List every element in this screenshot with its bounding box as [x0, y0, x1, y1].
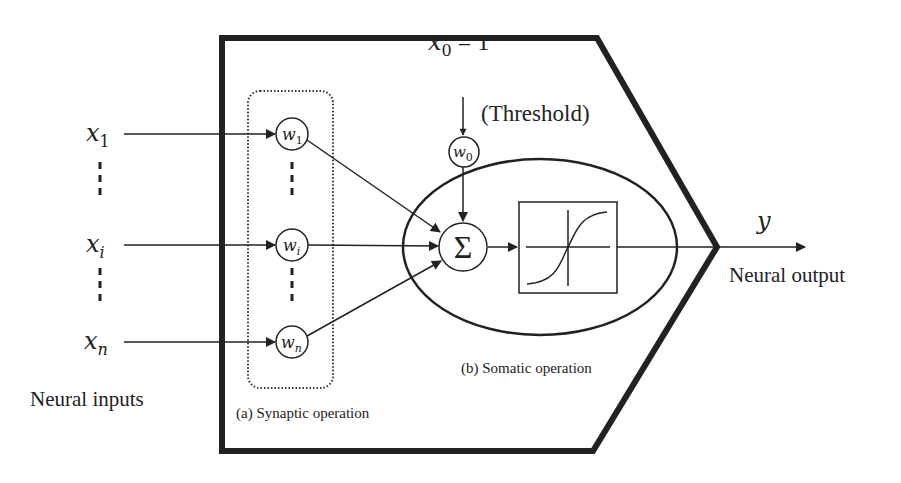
somatic-operation-label: (b) Somatic operation: [461, 360, 592, 377]
input-label-x1: x1: [86, 119, 110, 151]
weight-to-sum-arrow-1: [307, 140, 440, 232]
threshold-input-label: x0 = 1: [428, 28, 489, 60]
input-label-xi: xi: [86, 230, 105, 262]
weight-node-wi: wi: [276, 229, 308, 261]
weight-node-w0: w0: [449, 137, 479, 167]
weight-to-sum-arrow-i: [308, 245, 438, 246]
output-label: Neural output: [729, 263, 845, 287]
synaptic-operation-label: (a) Synaptic operation: [236, 405, 370, 422]
sigmoid-activation-icon: [519, 202, 617, 293]
weight-node-w1: w1: [276, 118, 308, 150]
svg-text:Σ: Σ: [454, 229, 473, 265]
summation-node: Σ: [439, 223, 487, 271]
weight-node-wn: wn: [276, 326, 308, 358]
threshold-label: (Threshold): [481, 101, 590, 126]
neuron-diagram: x1 xi xn w1 wi wn x0 = 1 (Threshold) w0 …: [0, 0, 901, 483]
neural-inputs-label: Neural inputs: [30, 387, 144, 411]
input-label-xn: xn: [84, 327, 108, 359]
weight-to-sum-arrow-n: [307, 261, 441, 336]
output-symbol: y: [756, 207, 771, 235]
